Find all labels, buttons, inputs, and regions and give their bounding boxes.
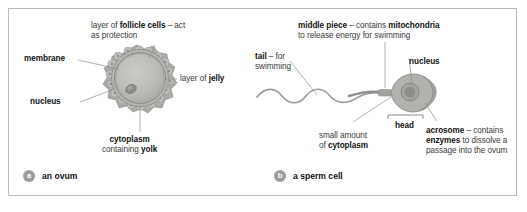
tail-line2: swimming xyxy=(255,62,291,71)
caption-panel-b: b a sperm cell xyxy=(274,170,343,182)
panel-badge-b: b xyxy=(274,170,286,182)
sperm-nucleus-core xyxy=(405,87,415,97)
label-sperm-nucleus: nucleus xyxy=(409,57,440,67)
label-acrosome: acrosome – contains enzymes to dissolve … xyxy=(426,126,507,157)
sperm-tail xyxy=(257,89,379,103)
mitochondria-keyword: mitochondria xyxy=(388,21,439,30)
tail-post: – for xyxy=(267,52,285,61)
acrosome-post: – contains xyxy=(464,126,503,135)
middle-piece-line2: to release energy for swimming xyxy=(298,31,410,40)
sperm-head xyxy=(391,74,436,112)
sperm-diagram xyxy=(9,9,518,197)
label-tail: tail – for swimming xyxy=(255,52,291,72)
sperm-cytoplasm-line1: small amount xyxy=(319,131,367,140)
label-head: head xyxy=(395,121,414,131)
tail-keyword: tail xyxy=(255,52,267,61)
sperm-middle-piece xyxy=(378,90,392,97)
label-middle-piece: middle piece – contains mitochondria to … xyxy=(298,21,440,41)
middle-piece-keyword: middle piece xyxy=(298,21,347,30)
head-bracket xyxy=(388,115,423,119)
middle-piece-post: – contains xyxy=(347,21,388,30)
figure-frame: layer of follicle cells – act as protect… xyxy=(8,8,517,196)
sperm-cytoplasm-keyword: cytoplasm xyxy=(328,141,368,150)
acrosome-line3: passage into the ovum xyxy=(426,146,507,155)
label-sperm-cytoplasm: small amount of cytoplasm xyxy=(319,131,368,151)
acrosome-line2-post: to dissolve a xyxy=(460,136,507,145)
enzymes-keyword: enzymes xyxy=(426,136,460,145)
acrosome-keyword: acrosome xyxy=(426,126,464,135)
sperm-cytoplasm-pre: of xyxy=(319,141,328,150)
caption-text-b: a sperm cell xyxy=(293,171,343,181)
